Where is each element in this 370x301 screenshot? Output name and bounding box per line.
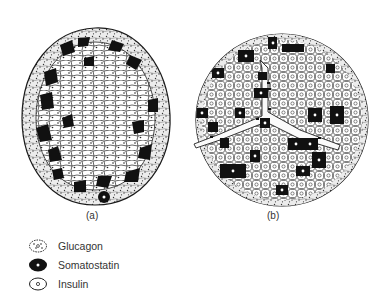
panel-label-a: (a) bbox=[86, 210, 98, 221]
panel-label-b: (b) bbox=[267, 210, 279, 221]
islet-b bbox=[194, 34, 368, 206]
legend-label-glucagon: Glucagon bbox=[58, 240, 103, 252]
legend-item-glucagon: Glucagon bbox=[28, 236, 119, 255]
black-cell-icon bbox=[28, 258, 48, 272]
legend: Glucagon Somatostatin Insulin bbox=[28, 236, 119, 293]
islet-a bbox=[22, 28, 170, 205]
legend-label-insulin: Insulin bbox=[58, 278, 88, 290]
open-cell-icon bbox=[28, 277, 48, 291]
legend-item-insulin: Insulin bbox=[28, 274, 119, 293]
dotted-cell-icon bbox=[28, 239, 48, 253]
legend-label-somatostatin: Somatostatin bbox=[58, 259, 119, 271]
legend-item-somatostatin: Somatostatin bbox=[28, 255, 119, 274]
